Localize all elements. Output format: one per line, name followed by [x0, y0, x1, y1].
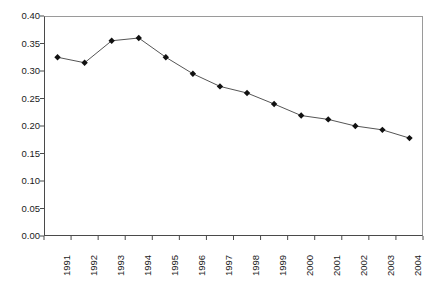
x-axis-tick-marks	[44, 236, 423, 240]
series-line-path	[58, 38, 410, 138]
data-point-marker	[136, 35, 142, 41]
data-point-marker	[190, 71, 196, 77]
y-axis-tick-marks	[40, 16, 44, 236]
chart-series-layer	[0, 0, 439, 282]
data-point-marker	[298, 112, 304, 118]
data-point-marker	[379, 127, 385, 133]
data-point-marker	[217, 83, 223, 89]
line-chart: 0.000.050.100.150.200.250.300.350.40 199…	[0, 0, 439, 282]
data-point-marker	[271, 101, 277, 107]
data-point-marker	[352, 123, 358, 129]
series-data-markers	[54, 35, 412, 142]
data-point-marker	[406, 135, 412, 141]
data-point-marker	[244, 90, 250, 96]
data-point-marker	[163, 54, 169, 60]
data-point-marker	[325, 116, 331, 122]
data-point-marker	[54, 54, 60, 60]
